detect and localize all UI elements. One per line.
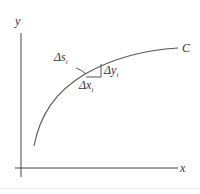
arc-element-tick (76, 68, 86, 74)
delta-s-label: Δsi (53, 50, 68, 66)
x-axis-label: x (179, 161, 186, 175)
arc-length-diagram: y x C Δsi Δxi Δyi (0, 0, 200, 194)
curve-label: C (182, 41, 191, 55)
y-axis-label: y (14, 14, 21, 28)
delta-y-label: Δyi (103, 63, 118, 79)
bottom-divider (0, 188, 200, 189)
delta-x-label: Δxi (78, 78, 93, 94)
